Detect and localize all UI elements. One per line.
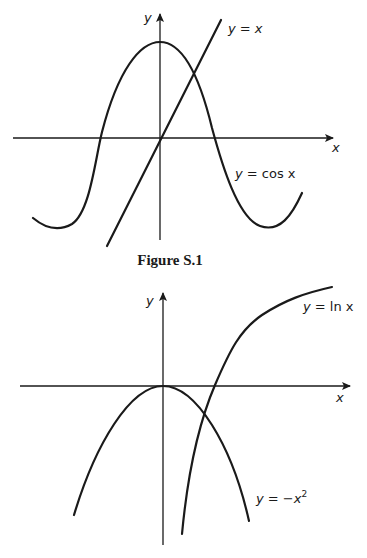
figure-caption: Figure S.1	[137, 252, 203, 268]
cosine-curve	[33, 42, 302, 228]
cosine-label: y = cos x	[234, 166, 296, 181]
y-axis-label: y	[145, 293, 154, 308]
neg-parabola-curve	[74, 386, 249, 521]
line-label: y = x	[227, 21, 263, 36]
figure-2: y x y = ln x y = −x2	[20, 287, 354, 545]
x-axis-label: x	[331, 140, 340, 155]
neg-parabola-label: y = −x2	[255, 489, 307, 506]
figure-1: y x y = x y = cos x Figure S.1	[13, 10, 340, 268]
log-label: y = ln x	[302, 299, 354, 314]
x-axis-label: x	[335, 390, 344, 405]
y-axis-label: y	[143, 10, 152, 25]
identity-line	[107, 20, 221, 246]
figure-canvas: y x y = x y = cos x Figure S.1 y x y = l…	[0, 0, 367, 558]
